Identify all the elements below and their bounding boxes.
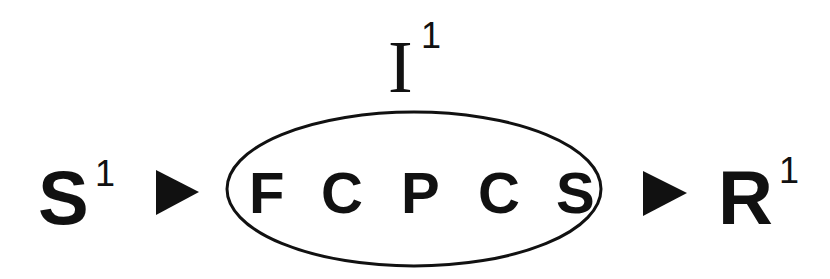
process-letter-f: F <box>249 164 284 222</box>
process-letter-c: C <box>478 164 520 222</box>
process-letter-p: P <box>401 164 440 222</box>
arrow-right-icon <box>643 171 687 216</box>
response-superscript: 1 <box>779 153 799 189</box>
diagram-shapes <box>0 0 830 279</box>
input-label: I <box>388 30 413 104</box>
arrow-right-icon <box>156 170 199 215</box>
stimulus-label: S <box>38 160 89 236</box>
stimulus-superscript: 1 <box>95 156 115 192</box>
input-superscript: 1 <box>421 18 441 54</box>
process-letter-s: S <box>556 164 595 222</box>
diagram-canvas: I 1 S 1 F C P C S R 1 <box>0 0 830 279</box>
process-letter-c: C <box>321 164 363 222</box>
response-label: R <box>718 160 773 236</box>
